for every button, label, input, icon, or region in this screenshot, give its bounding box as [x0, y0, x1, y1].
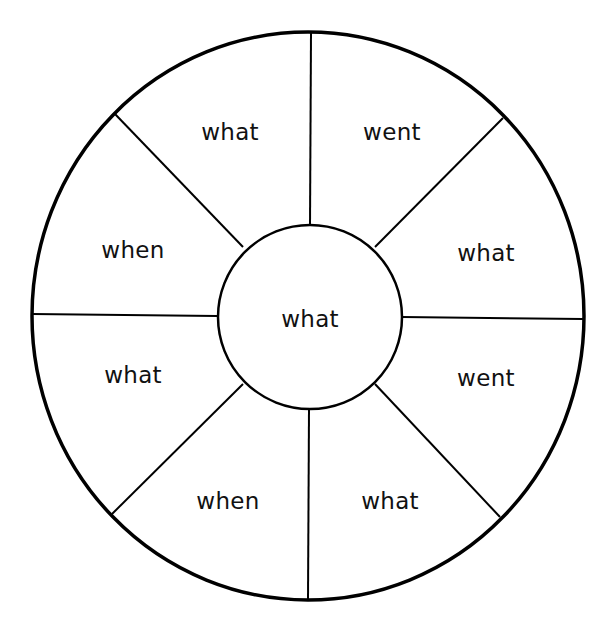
- segment-label-right-upper: what: [457, 240, 515, 266]
- segment-label-top-left: what: [201, 119, 259, 145]
- spoke-top: [310, 32, 311, 225]
- segment-label-left-lower: what: [104, 362, 162, 388]
- center-label: what: [281, 306, 339, 332]
- segment-label-top-right: went: [363, 119, 421, 145]
- segment-label-right-lower: went: [457, 365, 515, 391]
- segment-label-left-upper: when: [101, 237, 164, 263]
- segment-label-bottom-left: when: [196, 488, 259, 514]
- spoke-bottom: [308, 409, 309, 600]
- word-wheel-diagram: what went what went what when what when …: [0, 0, 612, 633]
- segment-label-bottom-right: what: [361, 488, 419, 514]
